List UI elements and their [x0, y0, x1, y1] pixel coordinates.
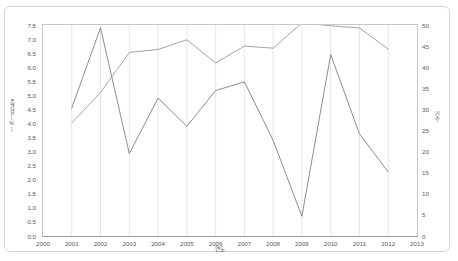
y-axis-left-tick-label: 3.0	[10, 148, 36, 155]
y-axis-right-tick-label: 45	[422, 43, 438, 50]
x-axis-tick-label: 2012	[373, 240, 403, 247]
x-axis-tick-label: 2002	[86, 240, 116, 247]
y-axis-left-tick-label: 0.0	[10, 233, 36, 240]
y-axis-right-tick-label: 20	[422, 148, 438, 155]
x-axis-tick-label: 2001	[57, 240, 87, 247]
y-axis-right-tick-label: 5	[422, 211, 438, 218]
y-axis-left-tick-label: 3.5	[10, 134, 36, 141]
x-axis-tick-label: 2009	[287, 240, 317, 247]
y-axis-left-tick-label: 7.0	[10, 36, 36, 43]
plot-area	[42, 24, 418, 237]
x-axis-tick-label: 2005	[172, 240, 202, 247]
y-axis-right-tick-label: 25	[422, 127, 438, 134]
chart-frame: 증가율(%) 건수 연도 0.00.51.01.52.02.53.03.54.0…	[4, 6, 450, 252]
y-axis-right-tick-label: 50	[422, 22, 438, 29]
x-axis-tick-label: 2010	[316, 240, 346, 247]
x-axis-tick-label: 2003	[114, 240, 144, 247]
y-axis-right-tick-label: 10	[422, 190, 438, 197]
y-axis-left-tick-label: 6.5	[10, 50, 36, 57]
data-lines	[43, 25, 417, 236]
x-axis-tick-label: 2011	[344, 240, 374, 247]
y-axis-left-tick-label: 1.0	[10, 204, 36, 211]
x-axis-tick-label: 2000	[28, 240, 58, 247]
y-axis-right-tick-label: 40	[422, 64, 438, 71]
chart-screenshot: 증가율(%) 건수 연도 0.00.51.01.52.02.53.03.54.0…	[0, 0, 458, 261]
y-axis-right-tick-label: 15	[422, 169, 438, 176]
y-axis-left-tick-label: 5.5	[10, 78, 36, 85]
x-axis-tick-label: 2004	[143, 240, 173, 247]
y-axis-left-tick-label: 1.5	[10, 190, 36, 197]
y-axis-left-tick-label: 4.5	[10, 106, 36, 113]
y-axis-left-tick-label: 5.0	[10, 92, 36, 99]
y-axis-left-tick-label: 7.5	[10, 22, 36, 29]
y-axis-left-tick-label: 2.5	[10, 162, 36, 169]
x-axis-tick-label: 2013	[402, 240, 432, 247]
y-axis-right-tick-label: 0	[422, 233, 438, 240]
y-axis-left-tick-label: 6.0	[10, 64, 36, 71]
x-axis-tick-label: 2008	[258, 240, 288, 247]
x-axis-tick-label: 2006	[201, 240, 231, 247]
y-axis-left-title: 증가율(%)	[8, 99, 14, 132]
y-axis-left-tick-label: 0.5	[10, 218, 36, 225]
y-axis-left-tick-label: 4.0	[10, 120, 36, 127]
x-axis-tick-label: 2007	[229, 240, 259, 247]
y-axis-right-tick-label: 35	[422, 85, 438, 92]
y-axis-right-tick-label: 30	[422, 106, 438, 113]
y-axis-left-tick-label: 2.0	[10, 176, 36, 183]
